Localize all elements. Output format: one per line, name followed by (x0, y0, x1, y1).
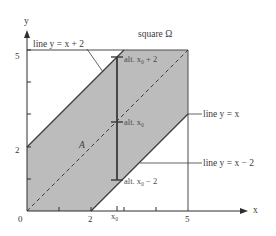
y-axis-label: y (24, 16, 29, 26)
y-tick-label-2: 2 (15, 145, 20, 155)
diagram-canvas: y x 5 2 0 2 5 x₀ square Ω line y = x + 2… (0, 0, 276, 236)
y-tick-label-5: 5 (15, 51, 20, 61)
y-axis-arrow-icon (24, 30, 30, 38)
label-line-lower: line y = x − 2 (203, 158, 254, 168)
label-alt-top: alt. x₀ + 2 (124, 54, 157, 64)
x-axis-arrow-icon (240, 208, 248, 214)
x0-label: x₀ (111, 211, 118, 221)
label-line-upper: line y = x + 2 (33, 39, 84, 49)
x-tick-label-5: 5 (185, 214, 190, 224)
x-tick-label-2: 2 (88, 214, 93, 224)
label-alt-bottom: alt. x₀ − 2 (124, 176, 157, 186)
label-alt-mid: alt. x₀ (124, 117, 144, 127)
leader-upper-line (87, 49, 103, 72)
square-omega-label: square Ω (138, 29, 172, 39)
x-axis-label: x (253, 205, 258, 215)
region-a-label: A (78, 140, 85, 150)
label-line-middle: line y = x (203, 109, 239, 119)
x-tick-label-0: 0 (18, 214, 23, 224)
